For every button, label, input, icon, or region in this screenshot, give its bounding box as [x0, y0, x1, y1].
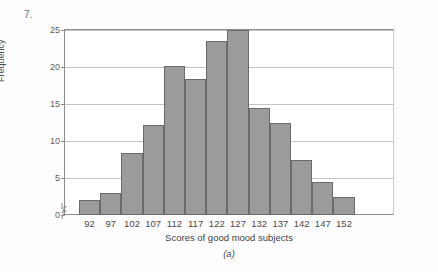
histogram-figure: Frequency 929710210711211712212713213714… — [0, 0, 438, 272]
y-tick-label: 20 — [38, 62, 60, 72]
x-tick-label: 97 — [106, 218, 117, 229]
figure-page: 7. Frequency 929710210711211712212713213… — [0, 0, 438, 272]
histogram-bar — [121, 153, 142, 215]
axis-break-zigzag-icon — [59, 202, 75, 220]
y-tick-label: 10 — [38, 136, 60, 146]
figure-caption: (a) — [64, 248, 394, 259]
y-tick-label: 15 — [38, 99, 60, 109]
y-tick-label: 0 — [38, 210, 60, 220]
x-tick-label: 122 — [209, 218, 225, 229]
y-tick-label: 25 — [38, 25, 60, 35]
x-tick-label: 132 — [251, 218, 267, 229]
y-tick-mark — [61, 30, 65, 31]
x-tick-label: 92 — [84, 218, 95, 229]
histogram-bar — [164, 66, 185, 215]
x-tick-label: 127 — [230, 218, 246, 229]
x-tick-label: 102 — [124, 218, 140, 229]
x-tick-label: 107 — [145, 218, 161, 229]
bars-layer — [65, 30, 393, 215]
y-tick-mark — [61, 178, 65, 179]
y-tick-mark — [61, 141, 65, 142]
x-tick-label: 147 — [315, 218, 331, 229]
x-tick-label: 142 — [294, 218, 310, 229]
x-tick-label: 117 — [188, 218, 203, 229]
histogram-bar — [206, 41, 227, 215]
histogram-bar — [333, 197, 354, 216]
y-tick-mark — [61, 104, 65, 105]
x-tick-label: 152 — [336, 218, 352, 229]
y-tick-mark — [61, 67, 65, 68]
histogram-bar — [312, 182, 333, 215]
x-tick-label: 137 — [272, 218, 288, 229]
histogram-bar — [227, 30, 248, 215]
y-axis-title: Frequency — [0, 39, 6, 82]
histogram-bar — [143, 125, 164, 215]
histogram-bar — [270, 123, 291, 216]
histogram-bar — [100, 193, 121, 215]
x-tick-label: 112 — [167, 218, 182, 229]
histogram-bar — [291, 160, 312, 216]
x-axis-title: Scores of good mood subjects — [64, 232, 394, 243]
y-tick-mark — [61, 215, 65, 216]
y-tick-label: 5 — [38, 173, 60, 183]
histogram-bar — [185, 79, 206, 215]
histogram-bar — [79, 200, 100, 215]
x-axis-tick-labels: 9297102107112117122127132137142147152 — [65, 218, 393, 232]
histogram-bar — [249, 108, 270, 215]
